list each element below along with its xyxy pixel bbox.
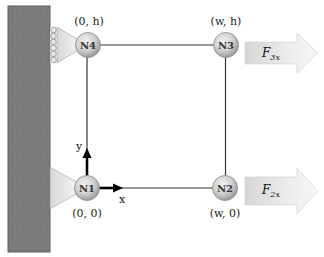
coord-label-n2: (w, 0) <box>210 207 241 220</box>
coord-label-n1: (0, 0) <box>72 207 102 220</box>
y-axis-label: y <box>75 140 83 153</box>
pin-support-n1 <box>50 167 78 209</box>
node-n3: N3 <box>214 33 239 58</box>
x-axis-label: x <box>119 193 126 206</box>
frame-members <box>87 45 226 188</box>
node-label-n1: N1 <box>79 183 95 194</box>
node-label-n3: N3 <box>218 40 234 51</box>
wall <box>8 6 50 252</box>
x-axis-arrowhead-icon <box>113 184 123 193</box>
y-axis-arrowhead-icon <box>83 148 92 158</box>
force-arrow-f3x: F3x <box>245 33 318 73</box>
node-n2: N2 <box>213 176 238 201</box>
coord-label-n3: (w, h) <box>211 15 242 28</box>
node-label-n4: N4 <box>80 40 96 51</box>
force-arrow-f2x: F2x <box>245 168 318 214</box>
node-label-n2: N2 <box>217 183 233 194</box>
coord-label-n4: (0, h) <box>74 15 104 28</box>
node-n4: N4 <box>76 33 101 58</box>
node-n1: N1 <box>75 176 100 201</box>
truss-diagram: y x F3x F2x N4 N3 N1 N2 (0, h) (w, h) (0… <box>0 0 324 257</box>
